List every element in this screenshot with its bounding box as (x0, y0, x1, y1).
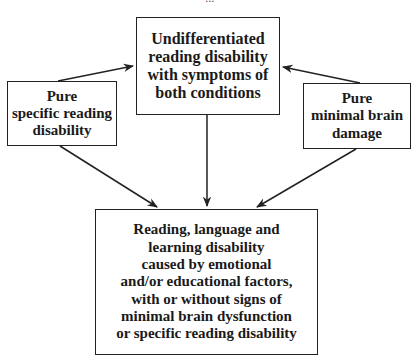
node-reading-language-learning-disability: Reading, language and learning disabilit… (95, 209, 318, 355)
arrow-left-to-bottom (60, 146, 157, 207)
node-undifferentiated-reading-disability: Undifferentiated reading disability with… (136, 17, 280, 115)
arrow-right-to-top (283, 67, 360, 83)
cropped-caption: ... (150, 0, 270, 6)
node-label: Reading, language and learning disabilit… (116, 221, 297, 343)
node-pure-specific-reading-disability: Pure specific reading disability (7, 81, 117, 146)
arrow-right-to-bottom (257, 149, 356, 207)
node-label: Undifferentiated reading disability with… (148, 30, 269, 103)
node-label: Pure specific reading disability (12, 88, 112, 139)
node-label: Pure minimal brain damage (311, 90, 403, 141)
arrow-left-to-top (58, 66, 133, 81)
node-pure-minimal-brain-damage: Pure minimal brain damage (303, 83, 411, 149)
